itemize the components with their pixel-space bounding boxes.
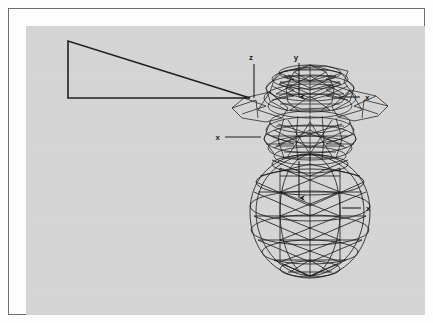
x-axis-mid-left-label: x [216, 133, 221, 142]
figure-canvas: z y x x x [26, 26, 425, 315]
figure-root: z y x x x [0, 0, 433, 323]
x-axis-upper-right-label: x [365, 93, 370, 102]
triangular-wedge-profile [68, 41, 250, 98]
y-axis-label: y [294, 53, 299, 62]
lower-ellipsoid-mesh [250, 154, 370, 278]
z-axis-label: z [249, 53, 253, 62]
x-axis-lower-right-label: x [366, 204, 371, 213]
figure-border-frame: z y x x x [8, 8, 425, 315]
wireframe-drawing: z y x x x [26, 26, 425, 315]
